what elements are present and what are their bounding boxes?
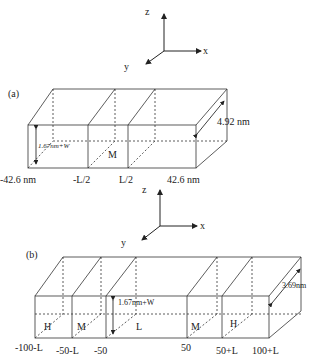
axis-triad-a	[146, 14, 201, 64]
tick-label-b-5: 100+L	[252, 346, 279, 356]
tick-label-b-1: -50-L	[56, 346, 79, 356]
height-label-a: 1.67nm+W	[38, 143, 69, 150]
region-label-a-M: M	[108, 150, 117, 160]
axis-triad-b	[142, 190, 197, 240]
axis-label-y-a: y	[124, 62, 129, 72]
tick-label-a-0: -42.6 nm	[0, 175, 36, 185]
region-label-b-H-left: H	[44, 322, 51, 332]
tick-label-a-3: 42.6 nm	[167, 175, 200, 185]
region-label-b-L: L	[136, 322, 142, 332]
axis-label-x-b: x	[200, 221, 205, 231]
tick-label-b-3: 50	[181, 343, 191, 353]
diagram-canvas	[0, 0, 322, 360]
height-label-b: 1.67nm+W	[118, 299, 154, 307]
tick-label-a-2: L/2	[119, 175, 133, 185]
tick-label-a-1: -L/2	[73, 175, 90, 185]
region-label-b-H-right: H	[230, 319, 237, 329]
region-label-b-M-right: M	[191, 322, 200, 332]
box-a	[28, 89, 227, 168]
panel-tag-b: (b)	[26, 250, 38, 260]
axis-label-z-b: z	[142, 185, 146, 195]
tick-label-b-0: -100-L	[15, 343, 43, 353]
tick-label-b-2: -50	[94, 346, 107, 356]
axis-label-x-a: x	[203, 46, 208, 56]
depth-label-b: 3.69nm	[282, 282, 306, 290]
box-b	[35, 257, 301, 338]
region-label-b-M-left: M	[77, 322, 86, 332]
panel-tag-a: (a)	[8, 89, 19, 99]
axis-label-y-b: y	[121, 238, 126, 248]
axis-label-z-a: z	[145, 7, 149, 17]
tick-label-b-4: 50+L	[216, 346, 238, 356]
depth-label-a: 4.92 nm	[217, 117, 250, 127]
